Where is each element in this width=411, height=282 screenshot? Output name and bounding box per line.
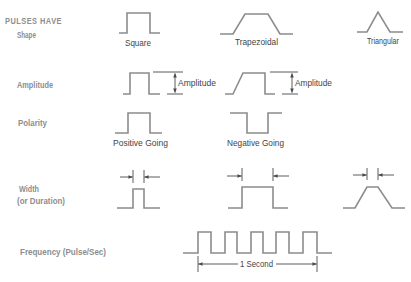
- amplitude-ramp-pulse: Amplitude: [225, 72, 332, 94]
- square-pulse: Square: [119, 13, 160, 48]
- row-label-shape: Shape: [17, 30, 36, 40]
- row-label-width: Width: [19, 184, 39, 194]
- pulse-train: 1 Second: [183, 232, 332, 272]
- amplitude-label-2: Amplitude: [295, 77, 332, 88]
- pulse-characteristics-diagram: PULSES HAVE Shape Amplitude Polarity Wid…: [0, 0, 411, 282]
- row-label-duration: (or Duration): [17, 196, 65, 206]
- narrow-width-pulse: [117, 170, 160, 208]
- row-label-polarity: Polarity: [18, 118, 47, 128]
- positive-going-label: Positive Going: [113, 137, 168, 148]
- row-label-amplitude: Amplitude: [17, 80, 53, 90]
- wide-width-pulse: [227, 168, 289, 208]
- amplitude-label-1: Amplitude: [178, 77, 216, 88]
- triangular-label: Triangular: [367, 35, 399, 46]
- amplitude-square-pulse: Amplitude: [123, 72, 216, 94]
- negative-going-label: Negative Going: [227, 137, 284, 148]
- trapezoidal-label: Trapezoidal: [235, 36, 278, 47]
- diagram-title: PULSES HAVE: [5, 15, 62, 26]
- one-second-label: 1 Second: [240, 258, 273, 269]
- positive-going-pulse: Positive Going: [113, 113, 168, 148]
- trapezoid-width-pulse: [343, 168, 405, 208]
- square-label: Square: [125, 37, 151, 48]
- triangular-pulse: Triangular: [357, 12, 403, 46]
- negative-going-pulse: Negative Going: [227, 113, 284, 148]
- row-label-frequency: Frequency (Pulse/Sec): [20, 247, 106, 257]
- trapezoidal-pulse: Trapezoidal: [220, 14, 293, 47]
